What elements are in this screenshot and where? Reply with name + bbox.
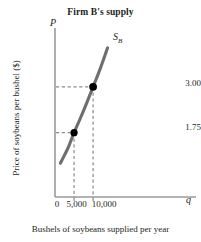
plot-area	[0, 0, 201, 242]
data-point-5000-1-75	[70, 129, 77, 136]
supply-curve-figure: Firm B's supply Price of soybeans per bu…	[0, 0, 201, 242]
supply-curve-sb	[60, 48, 107, 163]
data-point-10000-3-00	[89, 83, 97, 91]
